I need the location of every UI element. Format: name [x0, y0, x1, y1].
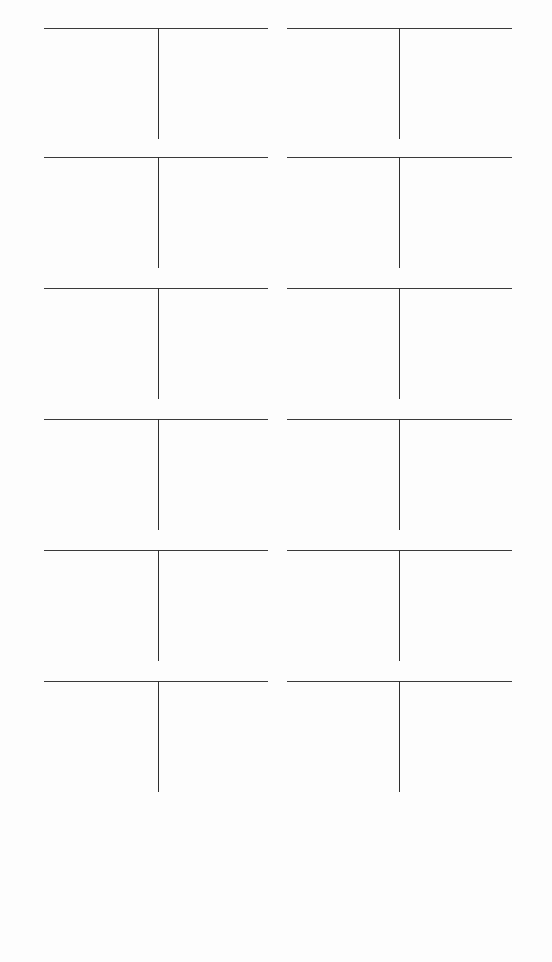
t-account-1: [44, 28, 268, 140]
credit-side: [160, 30, 268, 140]
debit-side: [287, 552, 397, 662]
t-account-divider: [399, 681, 400, 792]
t-account-top-rule: [44, 157, 268, 158]
t-account-divider: [399, 419, 400, 530]
t-account-divider: [399, 28, 400, 139]
credit-side: [160, 421, 268, 531]
t-account-4: [287, 157, 512, 269]
t-account-divider: [399, 550, 400, 661]
t-account-top-rule: [44, 28, 268, 29]
t-account-divider: [399, 157, 400, 268]
t-account-12: [287, 681, 512, 793]
t-account-divider: [158, 288, 159, 399]
t-account-top-rule: [44, 550, 268, 551]
t-account-divider: [158, 681, 159, 792]
debit-side: [44, 421, 156, 531]
worksheet-page: [0, 0, 552, 962]
debit-side: [44, 290, 156, 400]
credit-side: [160, 159, 268, 269]
t-account-divider: [158, 28, 159, 139]
credit-side: [160, 290, 268, 400]
debit-side: [287, 421, 397, 531]
t-account-2: [287, 28, 512, 140]
t-account-top-rule: [44, 288, 268, 289]
credit-side: [160, 683, 268, 793]
credit-side: [401, 290, 512, 400]
credit-side: [401, 159, 512, 269]
t-account-10: [287, 550, 512, 662]
credit-side: [160, 552, 268, 662]
t-account-divider: [399, 288, 400, 399]
t-account-6: [287, 288, 512, 400]
credit-side: [401, 683, 512, 793]
debit-side: [287, 290, 397, 400]
t-account-divider: [158, 419, 159, 530]
t-account-divider: [158, 157, 159, 268]
credit-side: [401, 30, 512, 140]
t-account-11: [44, 681, 268, 793]
t-account-divider: [158, 550, 159, 661]
credit-side: [401, 552, 512, 662]
debit-side: [287, 30, 397, 140]
t-account-7: [44, 419, 268, 531]
t-account-9: [44, 550, 268, 662]
debit-side: [44, 30, 156, 140]
debit-side: [287, 683, 397, 793]
t-account-8: [287, 419, 512, 531]
t-account-3: [44, 157, 268, 269]
t-account-top-rule: [44, 681, 268, 682]
debit-side: [287, 159, 397, 269]
debit-side: [44, 159, 156, 269]
debit-side: [44, 552, 156, 662]
debit-side: [44, 683, 156, 793]
credit-side: [401, 421, 512, 531]
t-account-top-rule: [44, 419, 268, 420]
t-account-5: [44, 288, 268, 400]
